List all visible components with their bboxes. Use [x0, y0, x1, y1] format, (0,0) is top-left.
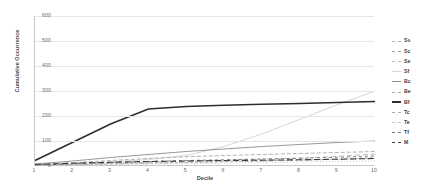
legend-item-bf[interactable]: Bf	[392, 97, 429, 107]
x-axis-tick-label: 4	[137, 168, 157, 173]
legend-item-bc[interactable]: Bc	[392, 77, 429, 87]
legend-swatch-icon	[392, 101, 401, 103]
x-axis-tick-label: 10	[364, 168, 384, 173]
legend-label: Sc	[404, 49, 410, 54]
gridline	[35, 141, 374, 142]
y-axis-tick-label: 500	[25, 38, 51, 43]
legend-item-sc[interactable]: Sc	[392, 46, 429, 56]
legend-label: M	[404, 140, 408, 145]
legend-label: Bf	[404, 100, 409, 105]
legend-label: Bc	[404, 79, 411, 84]
x-axis-label: Decile	[0, 175, 410, 181]
legend-label: Tf	[404, 130, 409, 135]
chart-legend: SsScSeSfBcBeBfTcTeTfM	[392, 36, 429, 148]
legend-label: Ss	[404, 38, 410, 43]
legend-label: Sf	[404, 69, 409, 74]
series-line-te	[35, 157, 375, 166]
x-axis-tick-label: 2	[62, 168, 82, 173]
legend-swatch-icon	[392, 61, 401, 62]
gridline	[35, 91, 374, 92]
plot-area	[34, 16, 374, 166]
y-axis-tick-label: 400	[25, 63, 51, 68]
y-axis-tick-label: 200	[25, 113, 51, 118]
x-axis-tick-label: 7	[251, 168, 271, 173]
legend-label: Tc	[404, 110, 410, 115]
legend-item-se[interactable]: Se	[392, 56, 429, 66]
legend-swatch-icon	[392, 71, 401, 72]
legend-swatch-icon	[392, 51, 401, 52]
y-axis-tick-label: 100	[25, 138, 51, 143]
legend-swatch-icon	[392, 122, 401, 123]
legend-label: Se	[404, 59, 410, 64]
x-axis-tick-label: 8	[288, 168, 308, 173]
gridline	[35, 116, 374, 117]
legend-item-ss[interactable]: Ss	[392, 36, 429, 46]
x-axis-tick-label: 1	[24, 168, 44, 173]
legend-label: Be	[404, 89, 411, 94]
legend-item-m[interactable]: M	[392, 138, 429, 148]
y-axis-tick-label: 300	[25, 88, 51, 93]
legend-item-te[interactable]: Te	[392, 118, 429, 128]
legend-item-tc[interactable]: Tc	[392, 107, 429, 117]
legend-swatch-icon	[392, 41, 401, 42]
x-axis-tick-label: 6	[213, 168, 233, 173]
y-axis-tick-label: 600	[25, 13, 51, 18]
gridline	[35, 66, 374, 67]
gridline	[35, 41, 374, 42]
gridline	[35, 16, 374, 17]
legend-item-be[interactable]: Be	[392, 87, 429, 97]
legend-label: Te	[404, 120, 410, 125]
legend-swatch-icon	[392, 112, 401, 113]
x-axis-tick-label: 3	[100, 168, 120, 173]
legend-swatch-icon	[392, 132, 401, 133]
legend-swatch-icon	[392, 92, 401, 93]
legend-item-tf[interactable]: Tf	[392, 128, 429, 138]
chart-container: 0100200300400500600 12345678910 Decile C…	[0, 0, 429, 187]
legend-swatch-icon	[392, 142, 401, 143]
x-axis-tick-label: 9	[326, 168, 346, 173]
legend-item-sf[interactable]: Sf	[392, 67, 429, 77]
legend-swatch-icon	[392, 81, 401, 82]
y-axis-label: Cumulative Occurrence	[14, 6, 20, 116]
x-axis-tick-label: 5	[175, 168, 195, 173]
